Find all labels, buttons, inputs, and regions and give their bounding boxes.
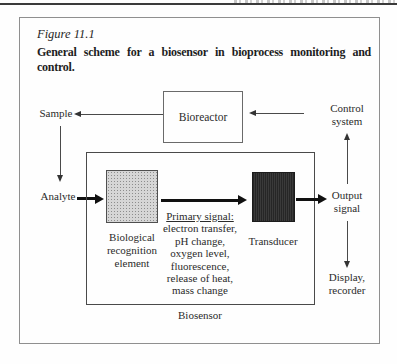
figure-caption-line1: General scheme for a biosensor in biopro…: [37, 45, 371, 60]
figure-caption: General scheme for a biosensor in biopro…: [37, 45, 371, 75]
control-to-bioreactor-line: [254, 113, 304, 114]
recognition-to-transducer-line: [161, 199, 239, 202]
bioreactor-to-sample-line: [80, 114, 163, 115]
primary-signal-item: mass change: [147, 284, 253, 296]
sample-arrowhead-icon: [74, 111, 81, 117]
output-signal-label: Output signal: [325, 189, 369, 215]
bioreactor-label: Bioreactor: [179, 111, 228, 123]
analyte-arrowhead-icon: [57, 175, 63, 182]
output-signal-line: [296, 198, 319, 201]
transducer-node: [252, 172, 295, 222]
primary-signal-heading: Primary signal:: [147, 210, 253, 222]
control-arrowhead-icon: [344, 133, 350, 140]
primary-signal-item: pH change,: [147, 235, 253, 247]
primary-signal-item: electron transfer,: [147, 222, 253, 234]
output-to-control-line: [347, 140, 348, 184]
primary-signal-block: Primary signal: electron transfer, pH ch…: [147, 210, 253, 297]
primary-signal-item: oxygen level,: [147, 247, 253, 259]
page-top-rule: [0, 3, 397, 5]
primary-signal-item: release of heat,: [147, 272, 253, 284]
bioreactor-feedback-arrowhead-icon: [249, 110, 256, 116]
output-to-display-line: [347, 221, 348, 262]
figure-number: Figure 11.1: [37, 27, 95, 42]
display-arrowhead-icon: [344, 261, 350, 268]
sample-to-analyte-line: [60, 126, 61, 176]
display-recorder-label: Display, recorder: [319, 271, 375, 297]
bioreactor-node: Bioreactor: [163, 91, 243, 143]
primary-signal-item: fluorescence,: [147, 260, 253, 272]
book-page-figure: Figure 11.1 General scheme for a biosens…: [0, 0, 397, 364]
figure-caption-line2: control.: [37, 60, 371, 75]
control-system-label: Control system: [322, 102, 372, 128]
biosensor-label: Biosensor: [163, 309, 237, 322]
recognition-to-transducer-arrowhead-icon: [238, 195, 247, 205]
